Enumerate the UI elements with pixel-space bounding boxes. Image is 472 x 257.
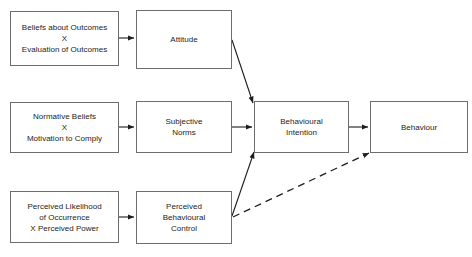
diagram-canvas: Beliefs about OutcomesXEvaluation of Out… [0, 0, 472, 257]
node-text-line: Normative Beliefs [33, 111, 96, 122]
node-behaviour: Behaviour [370, 101, 468, 153]
node-text-line: Behavioural [163, 212, 205, 223]
node-text-line: Motivation to Comply [27, 133, 102, 144]
node-text-line: Attitude [170, 34, 197, 45]
node-beliefs-about-outcomes: Beliefs about OutcomesXEvaluation of Out… [10, 11, 119, 66]
node-text-line: Norms [172, 127, 196, 138]
node-text-line: Perceived [166, 201, 202, 212]
node-text-line: of Occurrence [39, 212, 90, 223]
node-perceived-likelihood: Perceived Likelihoodof OccurrenceX Perce… [10, 191, 119, 243]
node-subjective-norms: SubjectiveNorms [136, 101, 232, 153]
node-text-line: Intention [286, 127, 317, 138]
node-text-line: Perceived Likelihood [27, 201, 101, 212]
node-text-line: Subjective [165, 116, 202, 127]
node-text-line: Behaviour [401, 122, 437, 133]
node-behavioural-intention: BehaviouralIntention [254, 101, 349, 153]
node-normative-beliefs: Normative BeliefsXMotivation to Comply [10, 102, 119, 153]
node-text-line: Behavioural [280, 116, 322, 127]
node-perceived-behavioural-control: PerceivedBehaviouralControl [136, 191, 232, 244]
node-text-line: X Perceived Power [30, 223, 98, 234]
node-text-line: Control [171, 223, 197, 234]
node-text-line: Evaluation of Outcomes [22, 44, 107, 55]
connector-control-to-intention [232, 152, 254, 216]
connector-attitude-to-intention [232, 40, 253, 103]
connector-control-to-behaviour-dashed [233, 153, 369, 217]
node-text-line: Beliefs about Outcomes [22, 22, 107, 33]
node-text-line: X [62, 33, 67, 44]
node-text-line: X [62, 122, 67, 133]
node-attitude: Attitude [136, 10, 232, 69]
